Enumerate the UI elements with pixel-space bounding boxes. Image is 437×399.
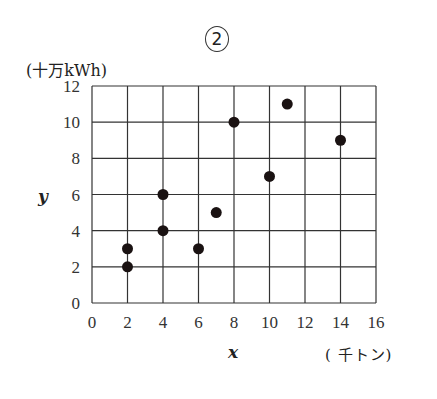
x-tick-label: 2 xyxy=(123,313,132,332)
y-tick-label: 10 xyxy=(63,113,80,132)
data-point xyxy=(158,225,169,236)
data-point xyxy=(193,243,204,254)
y-tick-label: 12 xyxy=(63,77,80,96)
x-tick-label: 14 xyxy=(332,313,350,332)
x-tick-label: 16 xyxy=(368,313,385,332)
data-point xyxy=(122,243,133,254)
data-point xyxy=(229,117,240,128)
x-tick-label: 4 xyxy=(159,313,168,332)
x-tick-label: 12 xyxy=(297,313,314,332)
data-point xyxy=(282,99,293,110)
data-point xyxy=(122,261,133,272)
y-tick-label: 6 xyxy=(72,186,81,205)
y-tick-label: 4 xyxy=(72,222,81,241)
data-point xyxy=(264,171,275,182)
scatter-plot: 0246810121416024681012 xyxy=(0,0,437,399)
y-tick-label: 0 xyxy=(72,294,81,313)
data-point xyxy=(211,207,222,218)
x-tick-label: 10 xyxy=(261,313,278,332)
y-tick-label: 8 xyxy=(72,149,81,168)
data-point xyxy=(158,189,169,200)
x-tick-label: 0 xyxy=(88,313,97,332)
x-tick-label: 8 xyxy=(230,313,239,332)
y-tick-label: 2 xyxy=(72,258,81,277)
x-tick-label: 6 xyxy=(194,313,203,332)
data-point xyxy=(335,135,346,146)
